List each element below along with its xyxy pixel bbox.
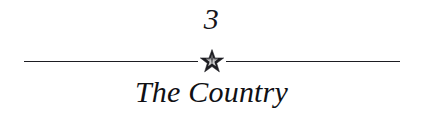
chapter-title: The Country — [0, 74, 423, 110]
chapter-number: 3 — [0, 2, 423, 36]
divider-rule-left — [24, 48, 198, 74]
chapter-heading: 3 The Country — [0, 0, 423, 115]
divider-rule-right — [226, 48, 400, 74]
ornament-divider — [0, 48, 423, 74]
star-icon — [199, 48, 225, 74]
